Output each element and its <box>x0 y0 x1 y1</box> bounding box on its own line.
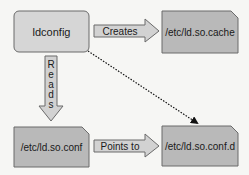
edge-reads-letter: s <box>49 99 54 110</box>
node-conf-label: /etc/ld.so.conf <box>21 142 83 153</box>
edge-dotted-connector <box>88 51 197 123</box>
dotted-arrow-icon <box>88 51 197 123</box>
node-confd: /etc/ld.so.conf.d <box>162 126 238 166</box>
node-ldconfig-label: ldconfig <box>33 26 71 38</box>
node-confd-label: /etc/ld.so.conf.d <box>165 141 235 152</box>
node-cache-label: /etc/ld.so.cache <box>165 27 235 38</box>
node-conf: /etc/ld.so.conf <box>14 127 89 167</box>
edge-points-to-label: Points to <box>101 141 140 152</box>
node-ldconfig: ldconfig <box>14 11 89 52</box>
node-cache: /etc/ld.so.cache <box>162 11 238 53</box>
edge-reads-arrow: R e a d s <box>39 56 63 121</box>
edge-creates-label: Creates <box>102 26 137 37</box>
ldconfig-diagram: ldconfig Creates /etc/ld.so.cache R e a … <box>0 0 249 175</box>
edge-points-to-arrow: Points to <box>94 134 159 157</box>
edge-creates-arrow: Creates <box>94 19 159 42</box>
